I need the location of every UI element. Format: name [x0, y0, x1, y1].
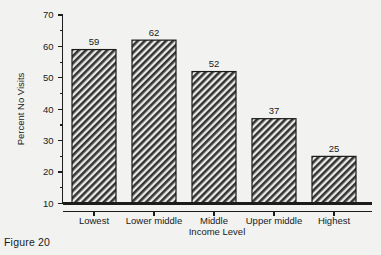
x-axis: LowestLower middleMiddleUpper middleHigh…	[63, 212, 372, 238]
y-axis-tick-label: 30	[43, 135, 54, 146]
y-axis-tick-label: 70	[43, 9, 54, 20]
bar-value-label: 37	[269, 105, 280, 116]
bar	[252, 119, 296, 204]
y-axis-tick-label: 10	[43, 198, 54, 209]
x-axis-tick-label: Lower middle	[126, 215, 183, 226]
bar-value-label: 62	[149, 27, 160, 38]
y-axis-tick-label: 50	[43, 72, 54, 83]
x-axis-tick-label: Lowest	[79, 215, 109, 226]
y-axis-tick-label: 40	[43, 104, 54, 115]
bar-value-label: 59	[89, 36, 100, 47]
y-axis-tick-label: 20	[43, 166, 54, 177]
plot-area: 5962523725	[63, 27, 373, 204]
bar-value-label: 52	[209, 58, 220, 69]
figure-container: 10203040506070 Percent No Visits 5962523…	[0, 0, 381, 255]
y-axis: 10203040506070 Percent No Visits	[15, 9, 63, 209]
x-axis-tick-labels: LowestLower middleMiddleUpper middleHigh…	[79, 215, 351, 226]
x-axis-tick-label: Middle	[200, 215, 228, 226]
figure-caption: Figure 20	[4, 236, 50, 248]
bar	[192, 72, 236, 204]
x-axis-tick-label: Highest	[318, 215, 351, 226]
bar-chart: 10203040506070 Percent No Visits 5962523…	[0, 0, 381, 255]
bar	[72, 50, 116, 204]
y-axis-title: Percent No Visits	[15, 72, 26, 145]
bar	[132, 40, 176, 203]
x-axis-title: Income Level	[189, 226, 246, 237]
x-axis-tick-label: Upper middle	[246, 215, 303, 226]
y-axis-tick-label: 60	[43, 41, 54, 52]
y-axis-ticks	[58, 15, 63, 204]
y-axis-tick-labels: 10203040506070	[43, 9, 54, 209]
bar-value-label: 25	[329, 143, 340, 154]
bar	[312, 156, 356, 203]
